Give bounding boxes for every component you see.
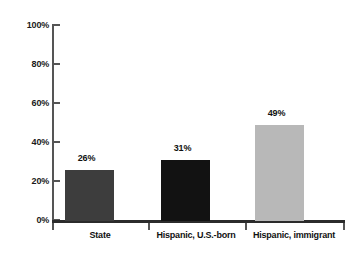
- bar-hispanic-us-born: [161, 160, 210, 221]
- bar-value-label: 31%: [146, 144, 219, 153]
- y-axis-tick-label: 40%: [5, 138, 49, 147]
- y-axis-tick-label: 80%: [5, 60, 49, 69]
- x-axis-tick-mark: [148, 223, 150, 230]
- bar-value-label: 26%: [50, 154, 123, 163]
- bar-chart-figure: 100% 80% 60% 40% 20% 0% 26% 31% 49% Stat…: [0, 0, 363, 256]
- plot-area: [53, 25, 345, 221]
- x-axis-tick-mark: [245, 223, 247, 230]
- y-axis-tick-label: 100%: [5, 21, 49, 30]
- x-axis-tick-mark: [52, 223, 54, 230]
- y-axis-tick-label: 60%: [5, 99, 49, 108]
- y-axis-tick-label: 0%: [5, 216, 49, 225]
- y-axis-tick-label: 20%: [5, 177, 49, 186]
- x-axis-category-label-hispanic-immigrant: Hispanic, immigrant: [234, 231, 354, 240]
- x-axis-tick-mark: [343, 223, 345, 230]
- bar-value-label: 49%: [240, 109, 313, 118]
- bar-hispanic-immigrant: [255, 125, 304, 221]
- bar-state: [65, 170, 114, 221]
